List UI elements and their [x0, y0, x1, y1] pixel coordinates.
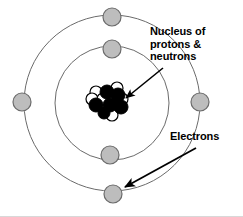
annotation-arrows	[125, 68, 196, 187]
atom-svg-canvas	[0, 0, 243, 217]
nucleus-cluster	[86, 82, 128, 121]
nucleus-arrow	[126, 68, 163, 98]
electron-outer-right	[191, 93, 209, 111]
proton-particle	[98, 107, 110, 119]
electrons-label: Electrons	[170, 130, 219, 143]
figure-bottom-border	[0, 216, 243, 217]
electron-outer-top	[103, 8, 121, 26]
electron-outer-bottom	[104, 185, 122, 203]
electron-outer-left	[13, 93, 31, 111]
nucleus-label: Nucleus of protons & neutrons	[150, 25, 205, 63]
electrons-arrow	[125, 148, 196, 187]
proton-particle	[114, 100, 128, 114]
electron-inner-bottom	[101, 146, 119, 164]
atom-diagram: Nucleus of protons & neutrons Electrons	[0, 0, 243, 217]
electron-inner-top	[103, 40, 121, 58]
